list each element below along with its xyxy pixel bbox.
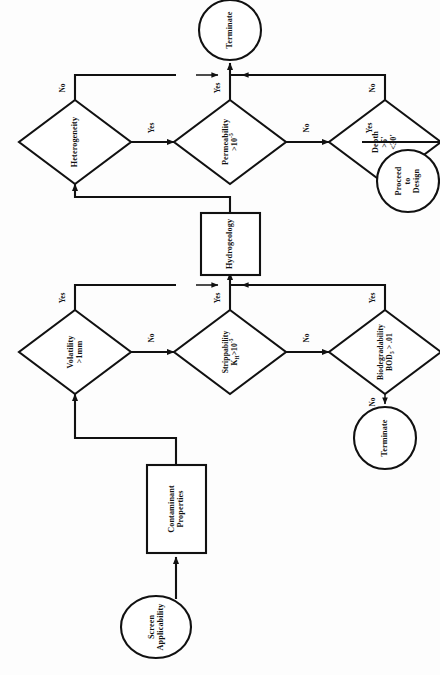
node-heterogeneity-shape [19,100,131,184]
flowchart-canvas: Screen Applicability Contaminant Propert… [0,0,440,675]
flowchart-graphics [0,0,440,675]
node-terminate-bottom-shape [354,407,416,469]
node-contaminant-properties-shape [147,465,206,553]
node-screen-applicability-shape [121,596,191,658]
node-permeability-shape [174,100,286,184]
node-terminate-top-shape [199,0,261,60]
node-proceed-to-design-shape [377,150,439,212]
node-volatility-shape [19,310,131,394]
node-strippability-shape [174,310,286,394]
node-hydrogeology-shape [201,213,260,275]
node-biodegradability-shape [329,310,440,394]
